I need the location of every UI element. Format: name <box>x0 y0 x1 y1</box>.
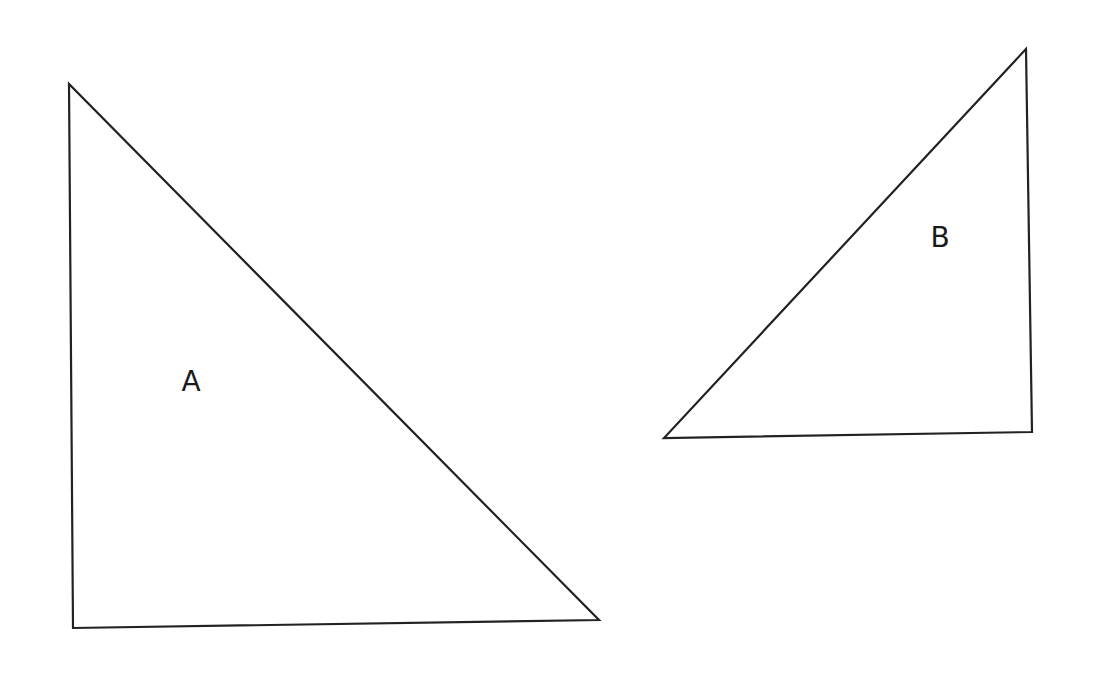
triangle-a <box>69 84 599 628</box>
triangle-b <box>664 49 1032 438</box>
diagram-canvas <box>0 0 1093 674</box>
triangle-b-label: B <box>930 224 949 252</box>
triangle-a-label: A <box>181 368 200 396</box>
